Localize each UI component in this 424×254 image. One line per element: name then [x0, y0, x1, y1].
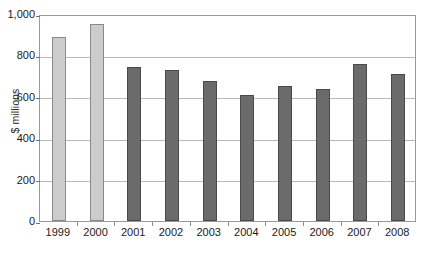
x-axis-tick-label: 2003: [190, 226, 228, 239]
y-axis-tick-label: 200: [0, 175, 35, 186]
x-axis-tickmark: [378, 222, 379, 226]
bar-chart: $ millions 02004006008001,000 1999200020…: [0, 0, 424, 254]
y-axis-tickmark: [36, 181, 40, 182]
y-axis-tick-label: 800: [0, 50, 35, 61]
x-axis-tick-label: 2006: [303, 226, 341, 239]
x-axis-tickmark: [265, 222, 266, 226]
y-axis-tickmark: [36, 16, 40, 17]
x-axis-tick-label: 2000: [77, 226, 115, 239]
y-axis-tick-label: 400: [0, 133, 35, 144]
y-axis-tick-label: 600: [0, 92, 35, 103]
bar-2002: [165, 70, 179, 221]
bar-2006: [316, 89, 330, 221]
y-axis-tick-labels: 02004006008001,000: [0, 0, 35, 254]
x-axis-tick-label: 2001: [114, 226, 152, 239]
y-axis-tickmark: [36, 223, 40, 224]
y-axis-tick-label: 1,000: [0, 9, 35, 20]
x-axis-tickmark: [341, 222, 342, 226]
x-axis-tick-label: 1999: [39, 226, 77, 239]
bar-2003: [203, 81, 217, 221]
x-axis-tick-label: 2007: [341, 226, 379, 239]
bar-2001: [127, 67, 141, 221]
plot-area: [39, 15, 416, 222]
bar-2000: [90, 24, 104, 221]
bar-2007: [353, 64, 367, 221]
x-axis-tick-label: 2002: [152, 226, 190, 239]
bar-2005: [278, 86, 292, 221]
x-axis-tickmark: [77, 222, 78, 226]
x-axis-tick-label: 2004: [228, 226, 266, 239]
x-axis-tick-label: 2008: [378, 226, 416, 239]
x-axis-tickmark: [228, 222, 229, 226]
x-axis-tickmark: [114, 222, 115, 226]
y-axis-tick-label: 0: [0, 216, 35, 227]
y-axis-tickmark: [36, 57, 40, 58]
bar-1999: [52, 37, 66, 221]
y-axis-tickmark: [36, 98, 40, 99]
bar-2008: [391, 74, 405, 221]
x-axis-tickmark: [303, 222, 304, 226]
x-axis-tickmark: [190, 222, 191, 226]
x-axis-tick-labels: 1999200020012002200320042005200620072008: [39, 226, 416, 246]
x-axis-tickmark: [152, 222, 153, 226]
y-axis-tickmark: [36, 140, 40, 141]
x-axis-tick-label: 2005: [265, 226, 303, 239]
bar-2004: [240, 95, 254, 221]
